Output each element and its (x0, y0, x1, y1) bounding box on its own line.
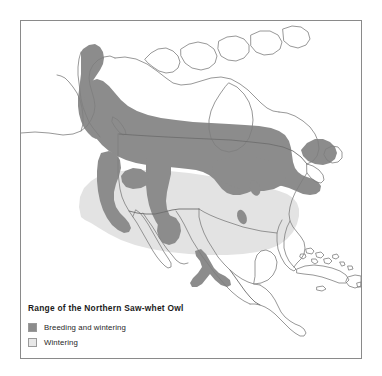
coastline-bahamas-3 (324, 258, 332, 264)
coastline-bahamas-6 (300, 254, 306, 259)
coastline-bahamas-2 (316, 252, 324, 258)
legend-label-wintering: Wintering (44, 338, 78, 348)
legend-swatch-wintering-icon (28, 338, 37, 347)
legend-label-breeding: Breeding and wintering (44, 323, 126, 333)
legend-swatch-breeding-icon (28, 323, 37, 332)
legend-title: Range of the Northern Saw-whet Owl (28, 303, 198, 314)
legend-item-wintering: Wintering (28, 336, 198, 349)
coastline-central-america (250, 285, 306, 336)
coastline-jamaica (317, 286, 326, 291)
coastline-small-antille-2 (348, 266, 353, 270)
coastline-bahamas-1 (306, 248, 314, 254)
map-legend: Range of the Northern Saw-whet Owl Breed… (28, 303, 198, 351)
coastline-bahamas-5 (333, 254, 339, 259)
coastline-yucatan (254, 250, 277, 284)
coastline-canada-arctic-mainland (115, 57, 279, 112)
coastline-arctic-islands-2 (181, 42, 217, 70)
coastline-arctic-islands-4 (251, 31, 282, 55)
coastline-small-antille-1 (340, 262, 345, 266)
range-map-figure: Range of the Northern Saw-whet Owl Breed… (0, 0, 382, 376)
coastline-bahamas-4 (312, 259, 318, 264)
coastline-arctic-islands-1 (145, 48, 180, 73)
border-mexico-guatemala (230, 270, 260, 305)
coastline-arctic-islands-5 (283, 26, 310, 48)
legend-item-breeding-and-wintering: Breeding and wintering (28, 321, 198, 334)
coastline-hispaniola (346, 275, 361, 288)
coastline-arctic-islands-3 (218, 36, 249, 61)
coastline-cuba (297, 265, 349, 283)
breeding-patch-maritimes (301, 139, 337, 165)
